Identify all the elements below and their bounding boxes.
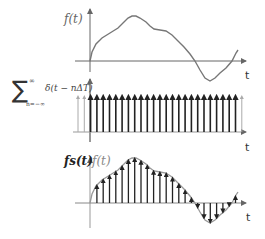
signal-curve xyxy=(90,16,238,81)
continuous-signal-plot xyxy=(75,9,246,81)
sampled-y-label: fs(t) xyxy=(64,155,93,167)
bottom-x-label: t xyxy=(246,212,250,223)
top-y-label: f(t) xyxy=(64,13,83,25)
envelope-curve xyxy=(90,158,238,223)
original-y-label: f(t) xyxy=(92,155,111,167)
top-x-label: t xyxy=(245,70,249,81)
delta-term: δ(t − nΔT) xyxy=(45,84,93,93)
middle-x-label: t xyxy=(245,142,249,153)
summation-upper-limit: ∞ xyxy=(29,78,35,85)
sampled-signal-plot xyxy=(75,158,246,228)
summation-lower-limit: n=−∞ xyxy=(26,101,45,107)
summation-symbol: ∑ xyxy=(12,78,28,102)
impulse-train-plot xyxy=(73,79,246,142)
impulse-train xyxy=(78,97,242,132)
sampling-diagram xyxy=(0,0,265,239)
sample-impulses xyxy=(97,160,236,222)
